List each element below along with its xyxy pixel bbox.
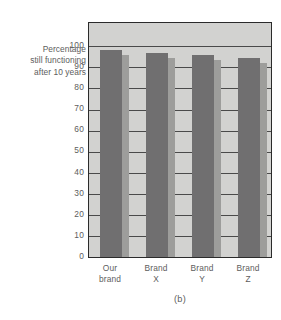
y-tick-label-80: 80	[58, 83, 84, 91]
x-tick-label-line: Our	[84, 263, 136, 274]
gridline-100	[89, 46, 271, 47]
y-axis-tick-labels: 0102030405060708090100	[56, 0, 84, 320]
bar-our-brand[interactable]	[100, 50, 122, 257]
x-tick-label-line: Y	[176, 274, 228, 285]
x-tick-label-line: Z	[222, 274, 274, 285]
x-tick-label-brand-x: BrandX	[130, 263, 182, 285]
x-tick-label-brand-z: BrandZ	[222, 263, 274, 285]
x-tick-label-line: Brand	[176, 263, 228, 274]
axis-baseline	[89, 258, 271, 259]
bar-brand-y[interactable]	[192, 55, 214, 258]
y-tick-label-20: 20	[58, 210, 84, 218]
x-tick-label-brand-y: BrandY	[176, 263, 228, 285]
plot-area	[88, 22, 272, 258]
x-tick-label-line: X	[130, 274, 182, 285]
bar-chart-figure: Percentage still functioning after 10 ye…	[0, 0, 281, 320]
x-tick-label-line: Brand	[130, 263, 182, 274]
y-tick-label-100: 100	[58, 41, 84, 49]
y-tick-label-10: 10	[58, 231, 84, 239]
y-tick-label-90: 90	[58, 62, 84, 70]
x-tick-label-line: brand	[84, 274, 136, 285]
x-tick-label-line: Brand	[222, 263, 274, 274]
bar-brand-x[interactable]	[146, 53, 168, 258]
bar-brand-z[interactable]	[238, 58, 260, 258]
figure-caption: (b)	[88, 294, 272, 304]
y-tick-label-60: 60	[58, 125, 84, 133]
x-tick-label-our-brand: Ourbrand	[84, 263, 136, 285]
y-tick-label-40: 40	[58, 168, 84, 176]
y-tick-label-50: 50	[58, 146, 84, 154]
y-tick-label-30: 30	[58, 189, 84, 197]
y-tick-label-70: 70	[58, 104, 84, 112]
y-tick-label-0: 0	[58, 252, 84, 260]
